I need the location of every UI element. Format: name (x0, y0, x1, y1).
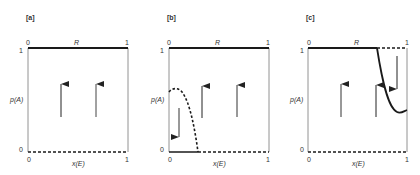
y-axis-label: p(A) (9, 96, 23, 104)
bottom-right-tick: 1 (266, 156, 270, 163)
y-axis-label: p(A) (289, 96, 303, 104)
stable-curve (377, 48, 407, 113)
bottom-right-tick: 1 (405, 156, 409, 163)
top-right-tick: 1 (125, 39, 129, 46)
y-axis-label: p(A) (150, 96, 164, 104)
unstable-curve (169, 89, 198, 152)
y-top-tick: 1 (160, 47, 164, 54)
top-left-tick: 0 (167, 39, 171, 46)
panel-tag: [b] (167, 14, 176, 22)
x-axis-label: x(E) (71, 160, 85, 168)
bottom-left-tick: 0 (168, 156, 172, 163)
phase-diagram-figure: [a] 0 R 1 1 p(A) 0 0 x(E) 1 [b] 0 R 1 1 … (0, 0, 420, 175)
y-bottom-tick: 0 (160, 146, 164, 153)
y-top-tick: 1 (300, 47, 304, 54)
y-bottom-tick: 0 (300, 146, 304, 153)
x-axis-label: x(E) (212, 160, 226, 168)
top-left-tick: 0 (26, 39, 30, 46)
top-axis-label: R (215, 39, 220, 46)
panel-c: [c] 0 R 1 1 p(A) 0 0 x(E) 1 (289, 14, 409, 168)
top-right-tick: 1 (405, 39, 409, 46)
panel-a: [a] 0 R 1 1 p(A) 0 0 x(E) 1 (9, 14, 129, 168)
panel-tag: [a] (26, 14, 35, 22)
panel-tag: [c] (306, 14, 315, 22)
bottom-left-tick: 0 (307, 156, 311, 163)
y-top-tick: 1 (19, 47, 23, 54)
bottom-left-tick: 0 (27, 156, 31, 163)
bottom-right-tick: 1 (125, 156, 129, 163)
x-axis-label: x(E) (351, 160, 365, 168)
top-axis-label: R (74, 39, 79, 46)
y-bottom-tick: 0 (19, 146, 23, 153)
top-right-tick: 1 (266, 39, 270, 46)
top-axis-label: R (354, 39, 359, 46)
panel-b: [b] 0 R 1 1 p(A) 0 0 x(E) 1 (150, 14, 270, 168)
top-left-tick: 0 (307, 39, 311, 46)
